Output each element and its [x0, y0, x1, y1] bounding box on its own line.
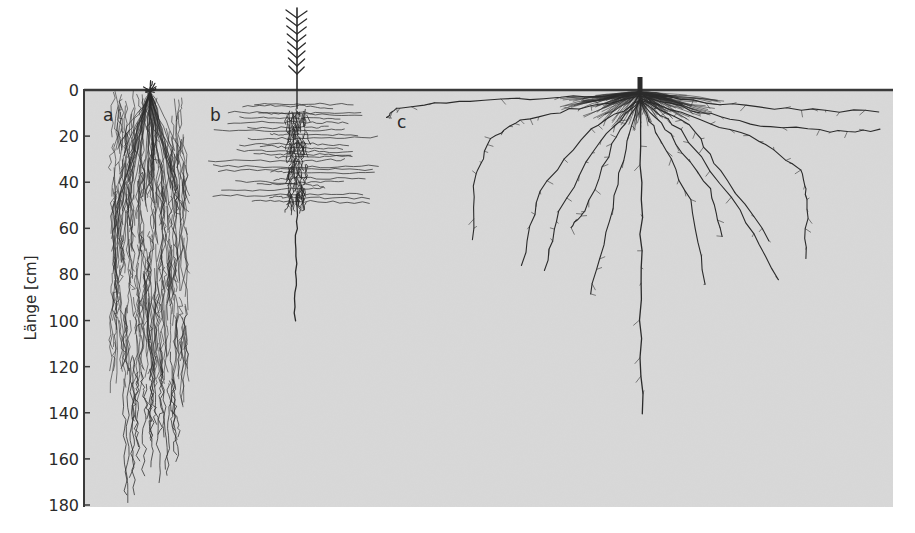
y-tick-label: 180 — [48, 496, 79, 515]
y-tick-label: 160 — [48, 450, 79, 469]
panel-letter-b: b — [210, 105, 221, 125]
root-system-figure: 020406080100120140160180 Länge [cm] a b … — [0, 0, 915, 533]
panel-letter-a: a — [103, 105, 113, 125]
panel-letter-c: c — [397, 112, 406, 132]
y-tick-label: 80 — [59, 265, 79, 284]
y-tick-label: 20 — [59, 127, 79, 146]
y-tick-label: 40 — [59, 173, 79, 192]
y-tick-label: 0 — [69, 81, 79, 100]
y-tick-label: 140 — [48, 404, 79, 423]
y-axis: 020406080100120140160180 Länge [cm] — [22, 81, 90, 515]
y-tick-label: 120 — [48, 358, 79, 377]
y-tick-label: 60 — [59, 219, 79, 238]
y-tick-label: 100 — [48, 312, 79, 331]
y-axis-label: Länge [cm] — [22, 255, 40, 340]
